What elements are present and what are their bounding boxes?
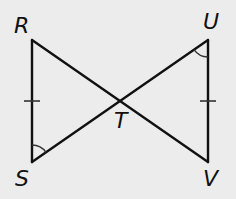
- geometry-diagram: R U S V T: [0, 0, 236, 199]
- label-S: S: [15, 166, 29, 191]
- label-V: V: [203, 166, 220, 191]
- label-U: U: [203, 9, 219, 34]
- label-T: T: [114, 108, 129, 133]
- label-R: R: [14, 13, 29, 38]
